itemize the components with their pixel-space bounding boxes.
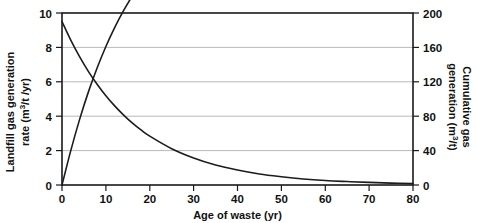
xtick-label-70: 70 xyxy=(363,193,376,205)
xtick-label-80: 80 xyxy=(407,193,420,205)
y2tick-label-200: 200 xyxy=(423,8,442,20)
ytick-label-4: 4 xyxy=(46,111,53,123)
y2tick-label-160: 160 xyxy=(423,42,442,54)
xtick-label-20: 20 xyxy=(143,193,156,205)
ytick-label-8: 8 xyxy=(46,42,53,54)
y2-axis-title-line1: Cumulative gas xyxy=(461,66,473,147)
y2tick-label-80: 80 xyxy=(423,111,436,123)
xtick-label-40: 40 xyxy=(231,193,244,205)
chart-background xyxy=(0,0,477,223)
y2-axis-title-line2-pre: generation (m xyxy=(447,63,459,136)
ytick-label-0: 0 xyxy=(46,180,52,192)
chart-svg: 10 8 6 4 2 0 200 160 120 80 40 0 xyxy=(0,0,477,223)
xtick-label-60: 60 xyxy=(319,193,332,205)
y2-axis-title-line2-post: /t) xyxy=(447,140,459,151)
y2tick-label-40: 40 xyxy=(423,145,436,157)
y2tick-label-120: 120 xyxy=(423,76,442,88)
ytick-label-10: 10 xyxy=(39,8,52,20)
ytick-label-2: 2 xyxy=(46,145,52,157)
xtick-label-0: 0 xyxy=(59,193,65,205)
y-axis-title-line2-post: /t /yr) xyxy=(19,78,31,105)
xtick-label-50: 50 xyxy=(275,193,288,205)
ytick-label-6: 6 xyxy=(46,76,52,88)
x-axis-title: Age of waste (yr) xyxy=(193,209,282,221)
xtick-label-30: 30 xyxy=(187,193,200,205)
chart-figure: 10 8 6 4 2 0 200 160 120 80 40 0 xyxy=(0,0,477,223)
y-axis-title-line2-pre: rate (m xyxy=(19,109,31,146)
xtick-label-10: 10 xyxy=(100,193,113,205)
y-axis-title-line2: rate (m3/t /yr) xyxy=(18,78,31,146)
y-axis-title-line1: Landfill gas generation xyxy=(4,52,16,173)
y2tick-label-0: 0 xyxy=(423,180,429,192)
